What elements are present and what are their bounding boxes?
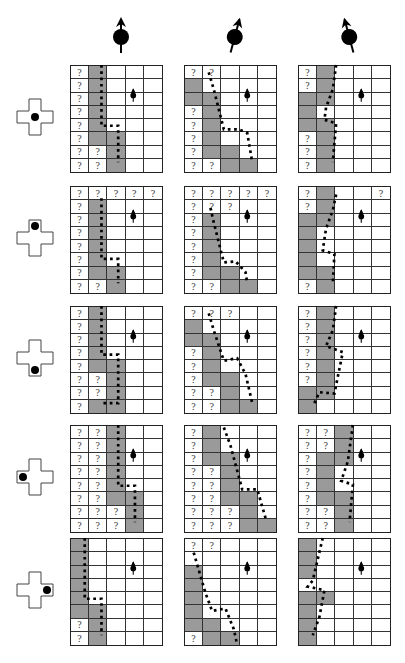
free-cell: [335, 400, 353, 413]
unknown-cell: ?: [299, 466, 317, 479]
unknown-cell: ?: [71, 492, 89, 505]
unknown-cell: ?: [71, 146, 89, 159]
free-cell: [221, 605, 239, 618]
occupied-cell: [107, 373, 125, 386]
unknown-cell: ?: [107, 187, 125, 200]
free-cell: [144, 214, 162, 227]
occupied-cell: [107, 159, 125, 172]
occupied-cell: [317, 119, 335, 132]
free-cell: [240, 373, 258, 386]
free-cell: [203, 552, 221, 565]
unknown-cell: ?: [203, 519, 221, 532]
free-cell: [240, 93, 258, 106]
occupied-cell: [317, 479, 335, 492]
grid-cells: ????????????: [298, 425, 391, 533]
occupancy-grid-r4-c1: ??????????????????: [70, 425, 163, 533]
free-cell: [335, 387, 353, 400]
free-cell: [221, 320, 239, 333]
free-cell: [335, 592, 353, 605]
free-cell: [126, 360, 144, 373]
free-cell: [258, 106, 276, 119]
free-cell: [144, 466, 162, 479]
free-cell: [258, 426, 276, 439]
unknown-cell: ?: [89, 146, 107, 159]
free-cell: [335, 93, 353, 106]
free-cell: [221, 66, 239, 79]
occupied-cell: [299, 566, 317, 579]
grid-cells: ????????: [184, 65, 277, 173]
free-cell: [144, 320, 162, 333]
free-cell: [354, 200, 372, 213]
unknown-cell: ?: [203, 66, 221, 79]
occupied-cell: [240, 492, 258, 505]
free-cell: [258, 347, 276, 360]
occupied-cell: [221, 280, 239, 293]
occupied-cell: [89, 267, 107, 280]
free-cell: [335, 159, 353, 172]
unknown-cell: ?: [71, 619, 89, 632]
free-cell: [372, 506, 390, 519]
unknown-cell: ?: [299, 187, 317, 200]
free-cell: [372, 592, 390, 605]
occupied-cell: [299, 119, 317, 132]
occupied-cell: [299, 227, 317, 240]
unknown-cell: ?: [221, 519, 239, 532]
free-cell: [258, 253, 276, 266]
unknown-cell: ?: [185, 426, 203, 439]
free-cell: [240, 240, 258, 253]
occupancy-grid-r2-c2: ???????????????: [184, 186, 277, 294]
free-cell: [240, 66, 258, 79]
free-cell: [335, 267, 353, 280]
free-cell: [372, 240, 390, 253]
free-cell: [240, 79, 258, 92]
free-cell: [144, 79, 162, 92]
unknown-cell: ?: [71, 307, 89, 320]
free-cell: [354, 552, 372, 565]
free-cell: [354, 307, 372, 320]
free-cell: [335, 373, 353, 386]
free-cell: [335, 579, 353, 592]
unknown-cell: ?: [372, 187, 390, 200]
unknown-cell: ?: [185, 373, 203, 386]
free-cell: [335, 146, 353, 159]
free-cell: [258, 439, 276, 452]
grid-cells: ???: [184, 538, 277, 646]
unknown-cell: ?: [71, 360, 89, 373]
unknown-cell: ?: [185, 240, 203, 253]
free-cell: [372, 200, 390, 213]
free-cell: [240, 605, 258, 618]
grid-cells: ?????: [298, 65, 391, 173]
free-cell: [107, 119, 125, 132]
occupancy-grid-r3-c1: ??????????: [70, 306, 163, 414]
occupied-cell: [335, 439, 353, 452]
free-cell: [240, 426, 258, 439]
free-cell: [317, 253, 335, 266]
free-cell: [107, 566, 125, 579]
occupied-cell: [299, 93, 317, 106]
unknown-cell: ?: [71, 93, 89, 106]
unknown-cell: ?: [185, 453, 203, 466]
free-cell: [258, 566, 276, 579]
free-cell: [240, 439, 258, 452]
occupied-cell: [185, 93, 203, 106]
free-cell: [354, 267, 372, 280]
free-cell: [372, 159, 390, 172]
free-cell: [144, 360, 162, 373]
free-cell: [354, 227, 372, 240]
free-cell: [317, 579, 335, 592]
free-cell: [126, 240, 144, 253]
unknown-cell: ?: [126, 187, 144, 200]
free-cell: [107, 307, 125, 320]
occupied-cell: [317, 187, 335, 200]
unknown-cell: ?: [71, 453, 89, 466]
free-cell: [258, 214, 276, 227]
unknown-cell: ?: [71, 280, 89, 293]
free-cell: [335, 320, 353, 333]
free-cell: [107, 320, 125, 333]
occupancy-grid-r5-c3: [298, 538, 391, 646]
unknown-cell: ?: [203, 466, 221, 479]
occupied-cell: [240, 159, 258, 172]
unknown-cell: ?: [185, 479, 203, 492]
free-cell: [221, 240, 239, 253]
free-cell: [335, 200, 353, 213]
